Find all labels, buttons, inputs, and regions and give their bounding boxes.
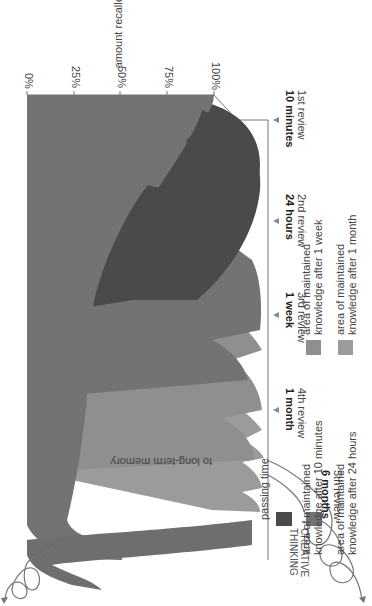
legend-1week-line2: knowledge after 1 week bbox=[312, 219, 324, 335]
legend-24h-line2: knowledge after 24 hours bbox=[346, 431, 358, 555]
legend-swatch-10min bbox=[276, 512, 292, 526]
legend-24h-line1: area of maintained bbox=[334, 431, 346, 555]
y-tick-50: 50% bbox=[116, 66, 128, 88]
y-tick-75: 75% bbox=[163, 66, 175, 88]
legend-text-1week: area of maintained knowledge after 1 wee… bbox=[300, 219, 324, 335]
legend-text-1month: area of maintained knowledge after 1 mon… bbox=[334, 215, 358, 335]
review-1-interval: 10 minutes bbox=[284, 90, 296, 147]
y-tick-100: 100% bbox=[210, 62, 222, 90]
legend-swatch-1month bbox=[338, 340, 353, 355]
legend-text-24h: area of maintained knowledge after 24 ho… bbox=[334, 431, 358, 555]
long-term-memory-label: to long-term memory bbox=[111, 456, 212, 468]
legend-1month-line2: knowledge after 1 month bbox=[346, 215, 358, 335]
y-tick-25: 25% bbox=[70, 66, 82, 88]
legend-1month-line1: area of maintained bbox=[334, 215, 346, 335]
legend-text-10min: area of maintained knowledge after 10 mi… bbox=[300, 420, 324, 555]
review-2-interval: 24 hours bbox=[284, 194, 296, 247]
y-axis-label: amount recalled bbox=[112, 0, 124, 68]
review-1-label: 1st review bbox=[296, 90, 308, 147]
y-tick-0: 0% bbox=[23, 73, 35, 89]
legend-title: passing time bbox=[258, 458, 270, 520]
legend-1week-line1: area of maintained bbox=[300, 219, 312, 335]
legend-swatch-1week bbox=[306, 340, 321, 355]
review-1: 1st review 10 minutes bbox=[284, 90, 308, 147]
legend-10min-line1: area of maintained bbox=[300, 420, 312, 555]
review-3-interval: 1 week bbox=[284, 292, 296, 343]
legend-10min-line2: knowledge after 10 minutes bbox=[312, 420, 324, 555]
